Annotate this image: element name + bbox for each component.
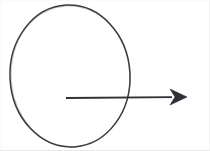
figure-container: A hand-drawn oval with a horizontal arro… bbox=[0, 0, 210, 151]
arrow-shaft bbox=[66, 97, 172, 98]
diagram-canvas bbox=[0, 0, 210, 151]
